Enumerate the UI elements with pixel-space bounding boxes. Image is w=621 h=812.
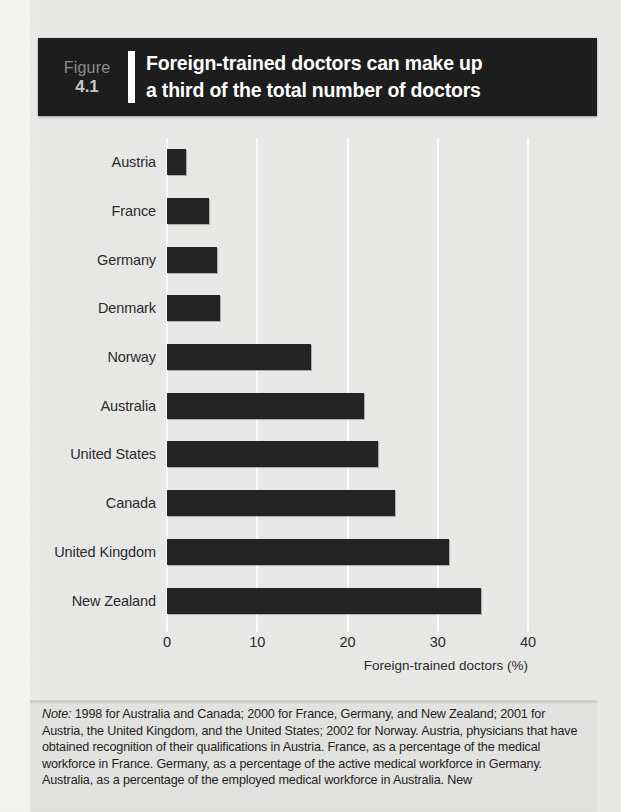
x-tick-20 xyxy=(347,625,349,632)
bar-row xyxy=(167,235,528,284)
bar-germany xyxy=(167,247,217,273)
scanned-page: Figure 4.1 Foreign-trained doctors can m… xyxy=(0,0,621,812)
x-tick-label-0: 0 xyxy=(163,634,171,650)
figure-number: 4.1 xyxy=(75,77,99,97)
y-axis-category-labels: AustriaFranceGermanyDenmarkNorwayAustral… xyxy=(38,138,162,625)
y-label-germany: Germany xyxy=(38,235,162,284)
figure-title-line-2: a third of the total number of doctors xyxy=(146,77,482,104)
bar-rows xyxy=(167,138,528,625)
bar-france xyxy=(167,198,209,224)
page-left-margin xyxy=(0,0,30,812)
bar-united-states xyxy=(167,441,378,467)
note-body: 1998 for Australia and Canada; 2000 for … xyxy=(42,707,577,787)
y-label-new-zealand: New Zealand xyxy=(38,576,162,625)
x-tick-30 xyxy=(437,625,439,632)
y-label-norway: Norway xyxy=(38,333,162,382)
bar-row xyxy=(167,187,528,236)
bar-row xyxy=(167,381,528,430)
bar-chart: AustriaFranceGermanyDenmarkNorwayAustral… xyxy=(38,124,597,684)
figure-title-line-1: Foreign-trained doctors can make up xyxy=(146,50,482,77)
figure-title: Foreign-trained doctors can make up a th… xyxy=(146,50,482,104)
x-axis-title: Foreign-trained doctors (%) xyxy=(167,658,531,673)
x-tick-40 xyxy=(527,625,529,632)
bar-row xyxy=(167,333,528,382)
x-tick-label-10: 10 xyxy=(249,634,265,650)
x-tick-10 xyxy=(256,625,258,632)
figure-label: Figure xyxy=(64,58,111,77)
note-prefix: Note: xyxy=(42,707,71,721)
note-separator xyxy=(30,700,597,703)
bar-austria xyxy=(167,149,186,175)
bar-row xyxy=(167,479,528,528)
note-text: Note: 1998 for Australia and Canada; 200… xyxy=(42,706,585,789)
figure-number-block: Figure 4.1 xyxy=(38,58,128,97)
y-label-denmark: Denmark xyxy=(38,284,162,333)
x-tick-label-30: 30 xyxy=(430,634,446,650)
bar-canada xyxy=(167,490,395,516)
y-label-united-states: United States xyxy=(38,430,162,479)
y-label-canada: Canada xyxy=(38,479,162,528)
bar-row xyxy=(167,576,528,625)
x-tick-label-40: 40 xyxy=(520,634,536,650)
figure-header-bar: Figure 4.1 Foreign-trained doctors can m… xyxy=(38,38,597,116)
bar-row xyxy=(167,528,528,577)
figure-note: Note: 1998 for Australia and Canada; 200… xyxy=(30,700,597,812)
x-tick-0 xyxy=(166,625,168,632)
x-tick-label-20: 20 xyxy=(339,634,355,650)
bar-norway xyxy=(167,344,311,370)
y-label-austria: Austria xyxy=(38,138,162,187)
header-divider-rule xyxy=(128,51,135,103)
y-label-united-kingdom: United Kingdom xyxy=(38,528,162,577)
y-label-australia: Australia xyxy=(38,381,162,430)
bar-row xyxy=(167,138,528,187)
y-label-france: France xyxy=(38,187,162,236)
bar-australia xyxy=(167,393,364,419)
bar-united-kingdom xyxy=(167,539,449,565)
bar-row xyxy=(167,430,528,479)
bar-denmark xyxy=(167,295,220,321)
plot-area xyxy=(167,138,528,625)
bar-new-zealand xyxy=(167,588,481,614)
bar-row xyxy=(167,284,528,333)
